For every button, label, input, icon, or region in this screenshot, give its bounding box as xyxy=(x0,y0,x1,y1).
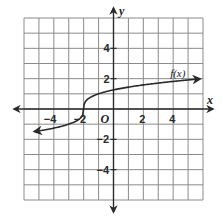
y-tick-label: −2 xyxy=(97,133,110,145)
x-tick-label: 2 xyxy=(139,113,145,125)
x-tick-label: O xyxy=(101,112,110,126)
x-tick-label: −4 xyxy=(44,113,57,125)
y-tick-label: 4 xyxy=(104,42,111,54)
x-tick-label: 4 xyxy=(169,113,176,125)
y-tick-label: 2 xyxy=(104,73,110,85)
y-tick-label: −4 xyxy=(97,164,110,176)
axes xyxy=(14,8,213,212)
x-axis-label: x xyxy=(206,93,213,107)
function-graph: −4−2O2442−2−4 x y f(x) xyxy=(0,0,223,219)
y-axis-label: y xyxy=(117,4,125,18)
function-label: f(x) xyxy=(170,67,186,80)
